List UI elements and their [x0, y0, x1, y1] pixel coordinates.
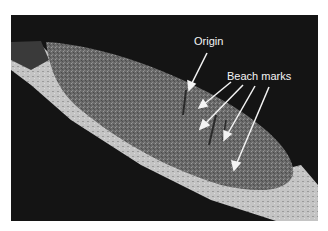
origin-label: Origin	[194, 35, 223, 47]
beach-marks-label: Beach marks	[227, 70, 291, 82]
fractograph-photo: Origin Beach marks	[11, 15, 318, 221]
fracture-surface-illustration	[11, 15, 318, 221]
